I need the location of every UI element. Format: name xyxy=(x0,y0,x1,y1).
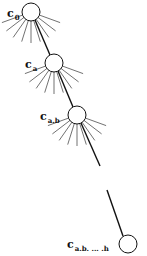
branch-line xyxy=(63,66,84,74)
node-label-cabh: ca.b. ... .h xyxy=(67,235,109,251)
path-edges xyxy=(35,20,123,236)
node-circle-c0 xyxy=(22,3,40,21)
node-label-c0: c0 xyxy=(7,4,20,20)
label-subscript: a.b xyxy=(48,116,60,125)
branch-fans xyxy=(2,15,106,146)
branch-line xyxy=(38,18,56,31)
branch-line xyxy=(40,15,61,23)
path-nodes xyxy=(22,3,137,253)
label-main: c xyxy=(7,7,14,20)
path-edge xyxy=(107,190,123,236)
label-subscript: a.b. ... .h xyxy=(75,244,109,253)
label-main: c xyxy=(40,110,47,123)
branch-line xyxy=(61,69,79,82)
branch-line xyxy=(84,121,102,134)
label-main: c xyxy=(67,238,74,251)
node-circle-cab xyxy=(68,106,86,124)
node-circle-ca xyxy=(45,54,63,72)
label-subscript: a xyxy=(33,64,38,73)
node-label-cab: ca.b xyxy=(40,107,60,123)
tree-path-diagram xyxy=(0,0,147,256)
path-edge xyxy=(81,123,100,166)
branch-line xyxy=(86,118,107,126)
label-main: c xyxy=(25,58,32,71)
node-circle-cabh xyxy=(119,235,137,253)
path-edge xyxy=(58,71,73,107)
node-label-ca: ca xyxy=(25,55,37,71)
label-subscript: 0 xyxy=(15,13,20,22)
